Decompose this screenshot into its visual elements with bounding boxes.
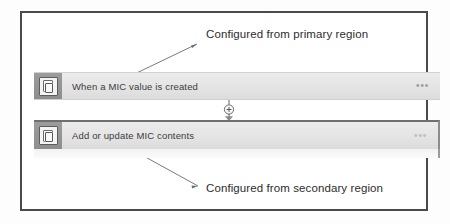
screenshot-root: When a MIC value is created •••: [0, 0, 450, 224]
flow-designer-canvas: When a MIC value is created •••: [22, 13, 426, 209]
flow-card-action-overflow-menu-icon[interactable]: •••: [414, 134, 427, 138]
figure-frame: When a MIC value is created •••: [20, 11, 428, 211]
insert-step-connector[interactable]: [218, 100, 240, 122]
flow-card-trigger-label: When a MIC value is created: [72, 81, 416, 92]
flow-card-trigger[interactable]: When a MIC value is created •••: [34, 72, 440, 100]
document-pages-icon: [34, 122, 62, 149]
annotation-label-secondary: Configured from secondary region: [206, 182, 383, 194]
annotation-label-primary: Configured from primary region: [206, 28, 368, 40]
flow-card-action-body: [34, 149, 440, 158]
flow-card-action-label: Add or update MIC contents: [72, 130, 414, 141]
insert-step-plus-icon[interactable]: [218, 100, 240, 122]
flow-card-trigger-overflow-menu-icon[interactable]: •••: [416, 84, 429, 88]
flow-card-action[interactable]: Add or update MIC contents •••: [34, 120, 440, 149]
document-pages-icon: [34, 73, 62, 99]
